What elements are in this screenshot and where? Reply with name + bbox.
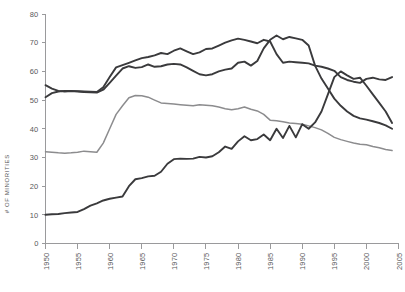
- chart-container: 0102030405060708019501955196019651970197…: [0, 0, 405, 292]
- y-tick-label: 70: [30, 38, 39, 47]
- y-tick-label: 50: [30, 96, 39, 105]
- y-tick-label: 0: [34, 239, 38, 248]
- x-tick-label: 1975: [202, 253, 211, 271]
- y-tick-label: 30: [30, 153, 39, 162]
- y-tick-label: 10: [30, 211, 39, 220]
- series-line-1: [46, 36, 393, 129]
- y-tick-label: 20: [30, 182, 39, 191]
- x-tick-label: 1970: [170, 253, 179, 271]
- x-tick-label: 1990: [298, 253, 307, 271]
- x-tick-label: 1980: [234, 253, 243, 271]
- x-tick-label: 1955: [74, 253, 83, 271]
- series-line-2: [46, 39, 393, 98]
- x-tick-label: 2005: [395, 253, 404, 271]
- line-chart: 0102030405060708019501955196019651970197…: [0, 0, 405, 292]
- y-tick-label: 60: [30, 67, 39, 76]
- x-tick-label: 1960: [106, 253, 115, 271]
- y-axis-title: # OF MINORITIES: [4, 154, 10, 213]
- x-tick-label: 1950: [42, 253, 51, 271]
- x-tick-label: 1985: [266, 253, 275, 271]
- y-tick-label: 80: [30, 10, 39, 19]
- y-tick-label: 40: [30, 125, 39, 134]
- x-tick-label: 1995: [330, 253, 339, 271]
- x-tick-label: 2000: [362, 253, 371, 271]
- x-tick-label: 1965: [138, 253, 147, 271]
